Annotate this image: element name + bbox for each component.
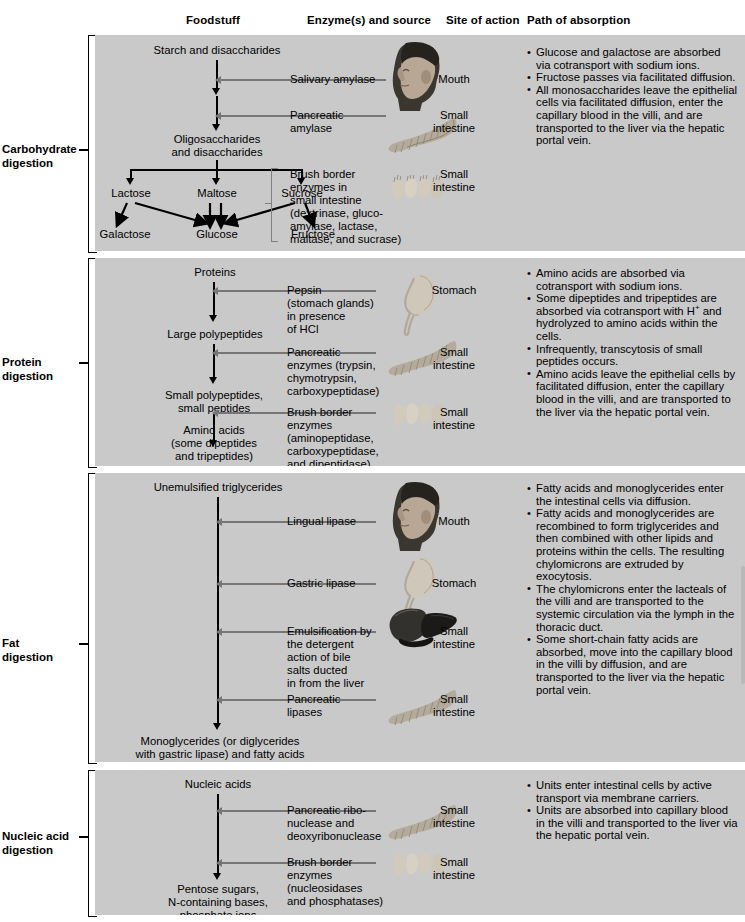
nucleic-foodstuff-start: Nucleic acids (143, 778, 293, 791)
fat-absorption-item: The chylomicrons enter the lacteals of t… (527, 583, 739, 633)
fat-enzyme-arrowhead-4 (216, 696, 222, 704)
nucleic-enzyme-arrowhead-1 (216, 807, 222, 815)
stomach-icon (395, 272, 445, 338)
carb-monosaccharide-galactose: Galactose (95, 228, 163, 241)
protein-foodstuff-start: Proteins (155, 266, 275, 279)
section-tick-fat (79, 643, 89, 645)
column-header-site: Site of action (446, 14, 520, 26)
nucleic-absorption-item: Units are absorbed into capillary blood … (527, 804, 739, 842)
section-label-fat: Fat digestion (2, 637, 80, 664)
protein-flow-arrowhead-1 (209, 315, 217, 322)
fat-absorption-item: Fatty acids and monoglycerides are recom… (527, 507, 739, 583)
fat-site-2: Stomach (417, 577, 491, 590)
protein-absorption-item: Some dipeptides and tripeptides are abso… (527, 292, 739, 342)
page-edge-artifact (741, 566, 745, 684)
carb-absorption-list: Glucose and galactose are absorbed via c… (527, 46, 737, 147)
fat-flow-arrowhead (213, 723, 221, 730)
carb-site-2: Small intestine (417, 109, 491, 135)
section-tick-protein (79, 362, 89, 364)
fat-site-1: Mouth (417, 515, 491, 528)
protein-foodstuff-end: Amino acids (some dipeptides and tripept… (131, 424, 297, 463)
carb-branch-arrowhead-lactose (126, 178, 134, 185)
protein-enzyme-label-1: Pepsin (stomach glands) in presence of H… (287, 284, 412, 336)
column-header-foodstuff: Foodstuff (186, 14, 240, 26)
protein-absorption-item: Infrequently, transcytosis of small pept… (527, 343, 739, 368)
fat-enzyme-arrowhead-2 (216, 580, 222, 588)
fat-enzyme-arrowhead-1 (216, 518, 222, 526)
carb-absorption-item: All monosaccharides leave the epithelial… (527, 84, 737, 147)
fat-flow-arrow (217, 497, 219, 726)
section-panel-carbohydrate: Starch and disaccharides Oligosaccharide… (95, 35, 745, 251)
carb-brush-border-bracket (271, 168, 278, 242)
carb-brush-border-bracket-tick (265, 203, 271, 204)
section-label-nucleic: Nucleic acid digestion (2, 830, 86, 857)
fat-absorption-list: Fatty acids and monoglycerides enter the… (527, 482, 739, 696)
carb-flow-arrowhead-2 (212, 124, 220, 131)
fat-foodstuff-start: Unemulsified triglycerides (123, 481, 313, 494)
section-label-protein: Protein digestion (2, 356, 80, 383)
section-panel-protein: Proteins Large polypeptides Small polype… (95, 258, 745, 466)
protein-enzyme-arrowhead-2 (212, 349, 218, 357)
nucleic-absorption-item: Units enter intestinal cells by active t… (527, 779, 739, 804)
section-label-carbohydrate: Carbohydrate digestion (2, 143, 80, 170)
protein-site-2: Small intestine (417, 346, 491, 372)
carb-foodstuff-start: Starch and disaccharides (122, 44, 312, 57)
nucleic-enzyme-arrowhead-2 (216, 859, 222, 867)
nucleic-foodstuff-end: Pentose sugars, N-containing bases, phos… (137, 883, 299, 915)
column-header-absorption: Path of absorption (527, 14, 630, 26)
carb-monosaccharide-glucose: Glucose (181, 228, 253, 241)
protein-absorption-item: Amino acids leave the epithelial cells b… (527, 368, 739, 418)
section-panel-nucleic: Nucleic acids Pentose sugars, N-containi… (95, 770, 745, 915)
fat-absorption-item: Fatty acids and monoglycerides enter the… (527, 482, 739, 507)
carb-branch-arrowhead-maltose (212, 178, 220, 185)
column-header-enzymes: Enzyme(s) and source (307, 14, 431, 26)
protein-flow-arrowhead-2 (209, 377, 217, 384)
nucleic-absorption-list: Units enter intestinal cells by active t… (527, 779, 739, 842)
carb-disaccharide-maltose: Maltose (183, 187, 251, 200)
carb-absorption-item: Fructose passes via facilitated diffusio… (527, 71, 737, 84)
fat-site-4: Small intestine (417, 693, 491, 719)
carb-absorption-item: Glucose and galactose are absorbed via c… (527, 46, 737, 71)
fat-foodstuff-end: Monoglycerides (or diglycerides with gas… (105, 735, 335, 761)
column-headers: Foodstuff Enzyme(s) and source Site of a… (0, 14, 745, 30)
fat-absorption-item: Some short-chain fatty acids are absorbe… (527, 633, 739, 696)
carb-enzyme-arrowhead-1 (215, 76, 221, 84)
protein-enzyme-arrowhead-1 (212, 287, 218, 295)
carb-foodstuff-intermediate: Oligosaccharides and disaccharides (127, 133, 307, 159)
carb-site-3: Small intestine (417, 168, 491, 194)
protein-site-3: Small intestine (417, 406, 491, 432)
section-panel-fat: Unemulsified triglycerides Monoglyceride… (95, 473, 745, 762)
protein-absorption-item: Amino acids are absorbed via cotransport… (527, 267, 739, 292)
protein-foodstuff-stage1: Large polypeptides (139, 328, 291, 341)
carb-enzyme-arrowhead-2 (215, 112, 221, 120)
protein-absorption-list: Amino acids are absorbed via cotransport… (527, 267, 739, 418)
nucleic-site-1: Small intestine (417, 804, 491, 830)
protein-site-1: Stomach (417, 284, 491, 297)
nucleic-flow-arrowhead (213, 873, 221, 880)
section-tick-carbohydrate (79, 149, 89, 151)
protein-enzyme-arrowhead-3 (212, 409, 218, 417)
carb-disaccharide-lactose: Lactose (97, 187, 165, 200)
fat-site-3: Small intestine (417, 625, 491, 651)
digestion-summary-figure: Foodstuff Enzyme(s) and source Site of a… (0, 0, 745, 922)
carb-flow-arrowhead-1 (212, 88, 220, 95)
carb-site-1: Mouth (417, 73, 491, 86)
nucleic-site-2: Small intestine (417, 856, 491, 882)
fat-enzyme-arrowhead-3 (216, 628, 222, 636)
